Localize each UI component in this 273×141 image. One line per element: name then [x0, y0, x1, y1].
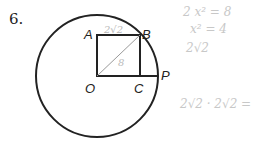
- label-C: C: [134, 81, 144, 96]
- handwritten-note-3: 2√2: [185, 41, 209, 55]
- annotation-side-AB: 2√2: [103, 24, 123, 35]
- label-O: O: [85, 81, 95, 96]
- geometry-diagram: A B O C P 2√2 8 2 x² = 8 x² = 4 2√2 2√2 …: [0, 0, 273, 141]
- label-A: A: [83, 27, 93, 42]
- label-B: B: [142, 27, 151, 42]
- handwritten-note-4: 2√2 · 2√2 =: [179, 97, 251, 111]
- handwritten-note-1: 2 x² = 8: [182, 5, 232, 19]
- handwritten-note-2: x² = 4: [190, 22, 227, 36]
- label-P: P: [161, 68, 170, 83]
- annotation-diagonal-OB: 8: [118, 57, 124, 68]
- diagonal-OB: [97, 35, 140, 76]
